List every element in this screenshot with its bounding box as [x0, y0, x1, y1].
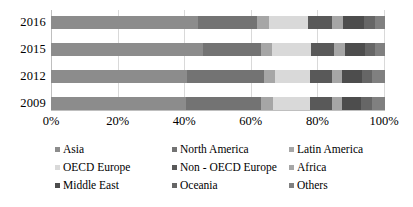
legend-item-label: OECD Europe [63, 161, 130, 174]
bar-segment[interactable] [203, 43, 261, 56]
bar-segment[interactable] [334, 43, 344, 56]
y-axis-tick-label: 2016 [0, 16, 46, 29]
y-axis-tick-label: 2015 [0, 43, 46, 56]
legend-swatch-icon [172, 183, 177, 188]
legend-item[interactable]: Non - OECD Europe [172, 161, 289, 174]
legend-item-label: Latin America [297, 143, 363, 156]
chart-legend: AsiaNorth AmericaLatin AmericaOECD Europ… [55, 140, 405, 194]
plot-area [51, 10, 385, 111]
bar-segment[interactable] [264, 70, 275, 83]
bar-segment[interactable] [375, 43, 385, 56]
bar-segment[interactable] [310, 97, 332, 110]
legend-item-label: Oceania [180, 179, 218, 192]
bar-segment[interactable] [51, 16, 198, 29]
bar-segment[interactable] [362, 70, 372, 83]
bar-row[interactable] [51, 97, 385, 110]
bar-segment[interactable] [361, 97, 371, 110]
legend-item[interactable]: Middle East [55, 179, 172, 192]
bar-segment[interactable] [342, 70, 362, 83]
bar-segment[interactable] [375, 16, 385, 29]
legend-item-label: Asia [63, 143, 84, 156]
bar-segment[interactable] [272, 43, 311, 56]
legend-swatch-icon [172, 147, 177, 152]
legend-item[interactable]: Others [289, 179, 405, 192]
legend-swatch-icon [289, 147, 294, 152]
bar-segment[interactable] [311, 43, 334, 56]
bar-segment[interactable] [342, 97, 361, 110]
stacked-bar-chart: 2016201520122009 0%20%40%60%80%100% Asia… [0, 0, 413, 207]
bar-segment[interactable] [365, 43, 375, 56]
bar-segment[interactable] [198, 16, 257, 29]
y-axis-tick-label: 2009 [0, 97, 46, 110]
bar-segment[interactable] [332, 16, 343, 29]
x-axis-tick-label: 60% [224, 114, 278, 128]
legend-item[interactable]: North America [172, 143, 289, 156]
bar-segment[interactable] [187, 70, 263, 83]
legend-item[interactable]: OECD Europe [55, 161, 172, 174]
bar-segment[interactable] [372, 70, 385, 83]
bar-segment[interactable] [343, 16, 364, 29]
legend-item[interactable]: Africa [289, 161, 405, 174]
bar-segment[interactable] [275, 70, 310, 83]
bar-segment[interactable] [332, 97, 342, 110]
bar-row[interactable] [51, 43, 385, 56]
bar-segment[interactable] [51, 70, 187, 83]
legend-item[interactable]: Oceania [172, 179, 289, 192]
bar-segment[interactable] [261, 97, 272, 110]
bar-segment[interactable] [364, 16, 375, 29]
x-axis-tick-label: 40% [157, 114, 211, 128]
y-axis-tick-label: 2012 [0, 70, 46, 83]
x-axis-line [51, 110, 385, 111]
bar-segment[interactable] [186, 97, 261, 110]
x-axis-tick-label: 80% [290, 114, 344, 128]
bar-segment[interactable] [261, 43, 273, 56]
bar-row[interactable] [51, 70, 385, 83]
legend-swatch-icon [289, 165, 294, 170]
bar-segment[interactable] [51, 43, 203, 56]
x-axis-tick-label: 20% [91, 114, 145, 128]
legend-item-label: Others [297, 179, 328, 192]
legend-item[interactable]: Asia [55, 143, 172, 156]
bar-row[interactable] [51, 16, 385, 29]
legend-swatch-icon [55, 165, 60, 170]
bar-segment[interactable] [273, 97, 310, 110]
bar-segment[interactable] [257, 16, 269, 29]
bar-segment[interactable] [310, 70, 331, 83]
legend-swatch-icon [55, 183, 60, 188]
legend-item-label: Middle East [63, 179, 119, 192]
legend-swatch-icon [55, 147, 60, 152]
bar-segment[interactable] [332, 70, 342, 83]
bar-segment[interactable] [372, 97, 385, 110]
bar-segment[interactable] [308, 16, 332, 29]
bar-segment[interactable] [269, 16, 308, 29]
legend-item-label: Non - OECD Europe [180, 161, 277, 174]
x-axis-tick-label: 0% [24, 114, 78, 128]
legend-item-label: North America [180, 143, 249, 156]
legend-swatch-icon [172, 165, 177, 170]
legend-swatch-icon [289, 183, 294, 188]
legend-item-label: Africa [297, 161, 326, 174]
x-axis-tick-label: 100% [357, 114, 411, 128]
bar-segment[interactable] [345, 43, 365, 56]
bar-segment[interactable] [51, 97, 186, 110]
legend-item[interactable]: Latin America [289, 143, 405, 156]
